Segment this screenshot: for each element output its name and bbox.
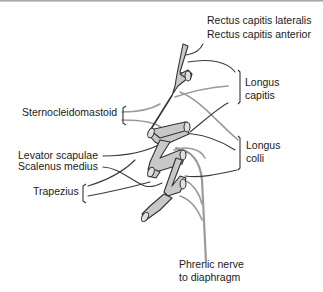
- bracket-scm: [123, 106, 126, 125]
- label-longus-capitis-2: capitis: [245, 90, 275, 101]
- label-longus-colli-1: Longus: [246, 140, 280, 151]
- label-to-diaphragm: to diaphragm: [179, 272, 240, 283]
- bracket-longus-colli: [238, 136, 240, 170]
- label-scalenus-medius: Scalenus medius: [18, 161, 98, 172]
- label-longus-capitis-1: Longus: [245, 77, 279, 88]
- cut-end-c5-right: [180, 179, 186, 189]
- branch-scm-upper: [122, 104, 160, 112]
- label-trapezius: Trapezius: [33, 186, 79, 197]
- branch-longus-colli-2: [186, 133, 235, 150]
- cut-end-c3-right: [184, 122, 190, 132]
- bracket-longus-capitis: [238, 70, 240, 104]
- branch-phrenic-c5: [180, 196, 202, 220]
- cut-end-c4-right: [180, 150, 186, 160]
- branch-longus-colli-3: [185, 170, 237, 177]
- label-phrenic-nerve: Phrenic nerve: [179, 259, 244, 270]
- branch-trapezius-2: [88, 182, 150, 196]
- branch-rectus: [186, 44, 203, 55]
- label-rectus-capitis-anterior: Rectus capitis anterior: [207, 29, 311, 40]
- bracket-trapezius: [83, 184, 86, 203]
- cut-end-c2: [185, 71, 191, 81]
- branch-longus-capitis: [188, 60, 235, 72]
- label-sternocleidomastoid: Sternocleidomastoid: [22, 107, 117, 118]
- label-rectus-capitis-lateralis: Rectus capitis lateralis: [207, 15, 311, 26]
- label-longus-colli-2: colli: [246, 153, 264, 164]
- branch-longus-colli: [190, 103, 228, 132]
- branch-longus-capitis-upper: [175, 86, 228, 97]
